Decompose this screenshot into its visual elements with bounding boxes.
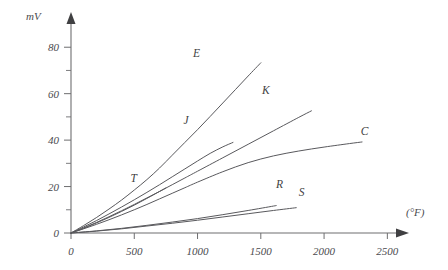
x-axis-title: (°F) bbox=[406, 206, 425, 219]
series-label-E: E bbox=[192, 47, 200, 59]
series-line-E bbox=[71, 63, 261, 233]
series-label-J: J bbox=[184, 114, 190, 126]
series-label-T: T bbox=[130, 172, 138, 184]
chart-canvas: 020406080 05001000150020002500 EKJTCRS m… bbox=[0, 0, 448, 270]
x-axis-arrow-icon bbox=[396, 229, 409, 238]
x-tick-group: 05001000150020002500 bbox=[68, 233, 399, 257]
y-tick-label-0: 0 bbox=[54, 227, 60, 239]
y-tick-group: 020406080 bbox=[48, 41, 71, 239]
y-axis-arrow-icon bbox=[67, 12, 76, 24]
y-axis-title: mV bbox=[26, 10, 42, 22]
y-tick-label-20: 20 bbox=[48, 181, 60, 193]
x-tick-label-500: 500 bbox=[126, 245, 143, 257]
x-tick-label-0: 0 bbox=[68, 245, 74, 257]
x-tick-label-2500: 2500 bbox=[376, 245, 399, 257]
series-label-K: K bbox=[261, 84, 271, 96]
x-tick-label-1000: 1000 bbox=[187, 245, 210, 257]
series-group bbox=[71, 63, 362, 233]
y-tick-label-40: 40 bbox=[48, 134, 60, 146]
series-line-J bbox=[71, 142, 233, 233]
series-label-S: S bbox=[299, 186, 305, 198]
series-line-C bbox=[71, 142, 362, 233]
x-tick-label-2000: 2000 bbox=[313, 245, 336, 257]
series-line-R bbox=[71, 206, 276, 233]
y-tick-label-80: 80 bbox=[48, 41, 60, 53]
y-tick-label-60: 60 bbox=[48, 88, 60, 100]
series-label-group: EKJTCRS bbox=[130, 47, 368, 198]
x-tick-label-1500: 1500 bbox=[250, 245, 273, 257]
thermocouple-chart: 020406080 05001000150020002500 EKJTCRS m… bbox=[0, 0, 448, 270]
series-label-C: C bbox=[361, 125, 369, 137]
series-label-R: R bbox=[275, 178, 283, 190]
